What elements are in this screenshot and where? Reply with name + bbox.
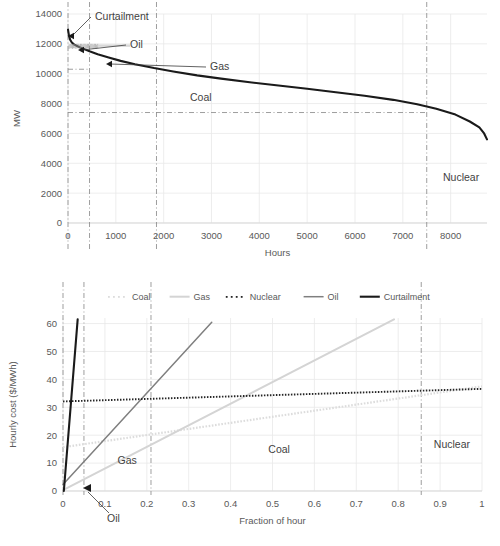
top-chart-annotation-nuclear: Nuclear — [443, 171, 480, 183]
bottom-chart-xtick-label: 1 — [479, 498, 484, 509]
top-chart-xtick-label: 6000 — [344, 230, 365, 241]
top-chart-yaxis-label: MW — [11, 110, 22, 127]
bottom-chart-xtick-label: 0.1 — [98, 498, 111, 509]
bottom-chart-annotation-oil: Oil — [107, 512, 120, 524]
top-chart-annotation-curtailment: Curtailment — [95, 10, 149, 22]
figure-canvas: 0200040006000800010000120001400001000200… — [0, 0, 500, 546]
bottom-chart-ytick-label: 30 — [46, 402, 57, 413]
top-chart-xtick-label: 1000 — [105, 230, 126, 241]
top-chart-ytick-label: 6000 — [41, 128, 62, 139]
top-chart-ytick-label: 10000 — [36, 68, 62, 79]
bottom-chart-ytick-label: 10 — [46, 457, 57, 468]
legend-marker-nuclear — [231, 296, 233, 298]
bottom-chart-xtick-label: 0.3 — [182, 498, 195, 509]
top-chart-ytick-label: 14000 — [36, 8, 62, 19]
legend-label-gas: Gas — [194, 292, 211, 302]
top-chart-ytick-label: 0 — [57, 217, 62, 228]
bottom-chart-xtick-label: 0.6 — [308, 498, 321, 509]
bottom-chart-ytick-label: 60 — [46, 318, 57, 329]
top-chart-xtick-label: 8000 — [440, 230, 461, 241]
legend-marker-nuclear — [236, 296, 238, 298]
top-chart-annotation-coal: Coal — [190, 91, 212, 103]
legend-marker-coal — [118, 296, 120, 298]
bottom-chart-annotation-coal: Coal — [268, 443, 290, 455]
bottom-chart-xtick-label: 0.8 — [392, 498, 405, 509]
bottom-chart-yaxis-label: Hourly cost ($/MWh) — [7, 361, 18, 448]
bottom-chart-annotation-gas: Gas — [117, 454, 136, 466]
legend-marker-nuclear — [241, 296, 243, 298]
bottom-chart-xaxis-label: Fraction of hour — [239, 515, 306, 526]
legend-label-nuclear: Nuclear — [250, 292, 281, 302]
top-chart-ytick-label: 4000 — [41, 158, 62, 169]
bottom-chart-ytick-label: 50 — [46, 346, 57, 357]
top-chart-xtick-label: 5000 — [297, 230, 318, 241]
top-chart-ytick-label: 8000 — [41, 98, 62, 109]
bottom-chart-annotation-nuclear: Nuclear — [434, 438, 471, 450]
top-chart-annotation-gas: Gas — [210, 60, 229, 72]
bottom-chart-xtick-label: 0.7 — [350, 498, 363, 509]
legend-label-coal: Coal — [132, 292, 151, 302]
top-chart-ytick-label: 12000 — [36, 38, 62, 49]
legend-label-curtailment: Curtailment — [384, 292, 431, 302]
top-chart-xtick-label: 4000 — [249, 230, 270, 241]
top-chart-xtick-label: 7000 — [392, 230, 413, 241]
bottom-chart-xtick-label: 0.2 — [140, 498, 153, 509]
top-chart-ytick-label: 2000 — [41, 188, 62, 199]
bottom-chart-xtick-label: 0 — [60, 498, 65, 509]
top-chart-xaxis-label: Hours — [265, 247, 291, 258]
legend-label-oil: Oil — [328, 292, 339, 302]
figure-container: 0200040006000800010000120001400001000200… — [0, 0, 500, 546]
top-chart-annotation-oil: Oil — [130, 38, 143, 50]
bottom-chart-ytick-label: 20 — [46, 430, 57, 441]
legend-marker-coal — [108, 296, 110, 298]
legend-marker-coal — [113, 296, 115, 298]
bottom-chart-xtick-label: 0.9 — [433, 498, 446, 509]
bottom-chart-ytick-label: 40 — [46, 374, 57, 385]
top-chart-xtick-label: 3000 — [201, 230, 222, 241]
bottom-chart-xtick-label: 0.5 — [266, 498, 279, 509]
legend-marker-coal — [123, 296, 125, 298]
bottom-chart-ytick-label: 0 — [52, 485, 57, 496]
bottom-chart-xtick-label: 0.4 — [224, 498, 237, 509]
legend-marker-nuclear — [226, 296, 228, 298]
